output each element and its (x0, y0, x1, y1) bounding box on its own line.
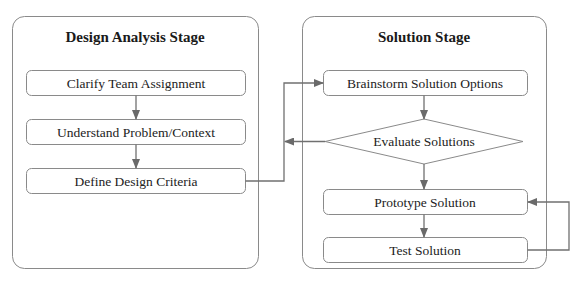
stage-solution: Solution Stage Brainstorm Solution Optio… (303, 17, 547, 269)
step-label-understand: Understand Problem/Context (57, 125, 215, 140)
step-label-define: Define Design Criteria (75, 174, 198, 189)
step-define[interactable]: Define Design Criteria (27, 169, 246, 194)
stage-design-analysis: Design Analysis Stage Clarify Team Assig… (13, 17, 259, 269)
stage-title-design-analysis: Design Analysis Stage (65, 29, 205, 45)
step-label-test: Test Solution (389, 243, 461, 258)
step-understand[interactable]: Understand Problem/Context (27, 120, 246, 145)
step-label-evaluate: Evaluate Solutions (373, 134, 475, 149)
step-label-clarify: Clarify Team Assignment (67, 76, 206, 91)
step-prototype[interactable]: Prototype Solution (324, 190, 528, 215)
stage-title-solution: Solution Stage (378, 29, 470, 45)
step-brainstorm[interactable]: Brainstorm Solution Options (324, 71, 528, 96)
step-label-brainstorm: Brainstorm Solution Options (347, 76, 503, 91)
design-process-flowchart: Design Analysis Stage Clarify Team Assig… (0, 0, 583, 286)
step-label-prototype: Prototype Solution (374, 195, 476, 210)
step-clarify[interactable]: Clarify Team Assignment (27, 71, 246, 96)
step-test[interactable]: Test Solution (324, 238, 528, 263)
